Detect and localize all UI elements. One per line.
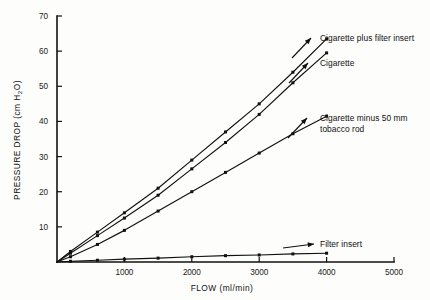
data-point-marker xyxy=(190,167,193,170)
chart-series xyxy=(57,37,328,262)
data-point-marker xyxy=(258,152,261,155)
data-point-marker xyxy=(291,252,294,255)
series-label-2-line2: tobacco rod xyxy=(320,124,365,134)
callout-arrow-icon xyxy=(308,242,314,247)
chart-axis-titles: FLOW (ml/min)PRESSURE DROP (cm H2O) xyxy=(12,80,253,293)
data-point-marker xyxy=(325,51,328,54)
data-point-marker xyxy=(258,113,261,116)
data-point-marker xyxy=(123,229,126,232)
x-axis-tick-label: 3000 xyxy=(250,268,268,277)
chart-figure: 1020304050607010002000300040005000 Cigar… xyxy=(0,0,430,300)
data-point-marker xyxy=(224,130,227,133)
y-axis-tick-label: 50 xyxy=(39,82,48,91)
chart-axes: 1020304050607010002000300040005000 xyxy=(39,12,403,277)
data-point-marker xyxy=(325,252,328,255)
data-point-marker xyxy=(291,71,294,74)
data-point-marker xyxy=(69,252,72,255)
x-axis-tick-label: 2000 xyxy=(183,268,201,277)
data-point-marker xyxy=(190,255,193,258)
data-point-marker xyxy=(258,102,261,105)
data-point-marker xyxy=(157,257,160,260)
data-point-marker xyxy=(190,190,193,193)
x-axis-tick-label: 1000 xyxy=(115,268,133,277)
data-point-marker xyxy=(123,217,126,220)
y-axis-tick-label: 10 xyxy=(39,223,48,232)
data-point-marker xyxy=(123,258,126,261)
chart-annotations: Cigarette plus filter insertCigaretteCig… xyxy=(283,33,415,249)
data-point-marker xyxy=(258,253,261,256)
x-axis-tick-label: 4000 xyxy=(318,268,336,277)
series-label-2: Cigarette minus 50 mm xyxy=(320,113,408,123)
data-point-marker xyxy=(96,231,99,234)
data-point-marker xyxy=(157,187,160,190)
data-point-marker xyxy=(96,259,99,262)
x-axis-tick-label: 5000 xyxy=(385,268,403,277)
data-point-marker xyxy=(224,141,227,144)
y-axis-tick-label: 40 xyxy=(39,117,48,126)
data-point-marker xyxy=(190,159,193,162)
data-point-marker xyxy=(291,81,294,84)
data-point-marker xyxy=(157,194,160,197)
data-point-marker xyxy=(96,234,99,237)
data-point-marker xyxy=(224,171,227,174)
y-axis-tick-label: 20 xyxy=(39,188,48,197)
y-axis-title: PRESSURE DROP (cm H2O) xyxy=(12,80,23,200)
data-point-marker xyxy=(123,211,126,214)
series-label-0: Cigarette plus filter insert xyxy=(320,33,415,43)
data-point-marker xyxy=(69,260,72,263)
series-line-0 xyxy=(57,39,327,262)
y-axis-tick-label: 60 xyxy=(39,47,48,56)
data-point-marker xyxy=(96,243,99,246)
series-line-2 xyxy=(57,116,327,262)
data-point-marker xyxy=(69,255,72,258)
data-point-marker xyxy=(157,210,160,213)
series-label-1: Cigarette xyxy=(320,58,355,68)
x-axis-title: FLOW (ml/min) xyxy=(191,283,254,293)
series-label-3: Filter insert xyxy=(320,239,363,249)
y-axis-tick-label: 30 xyxy=(39,153,48,162)
data-point-marker xyxy=(224,254,227,257)
y-axis-tick-label: 70 xyxy=(39,12,48,21)
line-chart-canvas: 1020304050607010002000300040005000 Cigar… xyxy=(0,0,430,300)
